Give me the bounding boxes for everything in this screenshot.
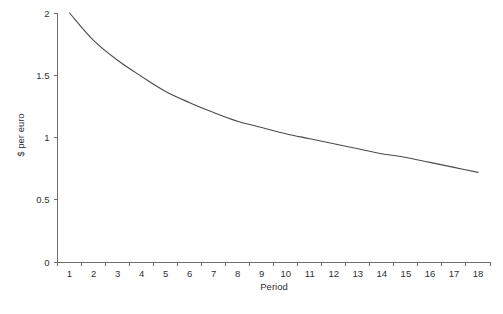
x-tick-label: 17 [449,268,460,279]
x-tick-label: 10 [280,268,291,279]
line-chart: 00.511.52 123456789101112131415161718 $ … [0,0,503,314]
figure-caption [4,300,304,312]
x-tick-label: 2 [91,268,96,279]
y-tick-label: 2 [44,8,49,19]
x-tick-label: 9 [259,268,264,279]
plot-background [0,0,503,314]
x-axis-title: Period [260,281,287,292]
y-tick-label: 0.5 [36,194,49,205]
x-tick-label: 3 [115,268,120,279]
x-tick-label: 15 [401,268,412,279]
figure-root: 00.511.52 123456789101112131415161718 $ … [0,0,503,314]
x-tick-label: 4 [139,268,144,279]
x-tick-label: 6 [187,268,192,279]
y-tick-label: 1.5 [36,70,49,81]
x-tick-label: 7 [211,268,216,279]
x-tick-label: 14 [377,268,388,279]
x-tick-label: 18 [473,268,484,279]
y-tick-label: 0 [44,257,49,268]
y-axis-title: $ per euro [15,113,26,156]
x-tick-label: 12 [329,268,340,279]
x-tick-label: 1 [67,268,72,279]
y-tick-label: 1 [44,132,49,143]
x-tick-label: 5 [163,268,168,279]
x-tick-label: 11 [305,268,315,279]
x-tick-label: 8 [235,268,240,279]
x-tick-label: 13 [353,268,364,279]
x-tick-label: 16 [425,268,436,279]
